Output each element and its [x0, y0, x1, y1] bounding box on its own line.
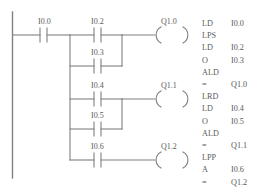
instruction-mnemonic: ALD [202, 69, 219, 77]
coil-label-q10: Q1.0 [161, 18, 177, 26]
instruction-mnemonic: LPP [202, 154, 216, 162]
contact-label-i06: I0.6 [91, 143, 104, 151]
contact-i02 [94, 28, 101, 42]
instruction-mnemonic: LD [202, 44, 213, 52]
instruction-operand: I0.0 [231, 20, 244, 28]
instruction-mnemonic: = [202, 179, 207, 187]
contact-i03 [94, 59, 101, 73]
contact-i00 [40, 28, 47, 42]
instruction-operand: Q1.0 [231, 81, 247, 89]
contact-label-i05: I0.5 [91, 112, 104, 120]
contact-i06 [94, 153, 101, 167]
instruction-mnemonic: LRD [202, 93, 218, 101]
instruction-mnemonic: LD [202, 20, 213, 28]
instruction-operand: I0.6 [231, 166, 244, 174]
instruction-mnemonic: O [202, 57, 208, 65]
instruction-mnemonic: LD [202, 105, 213, 113]
contact-label-i04: I0.4 [91, 82, 104, 90]
ladder-diagram-canvas [0, 0, 262, 188]
coil-q11 [156, 91, 188, 107]
instruction-mnemonic: O [202, 118, 208, 126]
instruction-mnemonic: A [202, 166, 208, 174]
instruction-mnemonic: ALD [202, 130, 219, 138]
instruction-mnemonic: = [202, 81, 207, 89]
contact-i05 [94, 122, 101, 136]
instruction-operand: I0.5 [231, 118, 244, 126]
instruction-mnemonic: LPS [202, 32, 216, 40]
contact-label-i03: I0.3 [91, 49, 104, 57]
instruction-operand: Q1.2 [231, 179, 247, 187]
coil-label-q12: Q1.2 [161, 143, 177, 151]
instruction-operand: I0.2 [231, 44, 244, 52]
coil-q10 [156, 27, 188, 43]
instruction-operand: I0.4 [231, 105, 244, 113]
coil-label-q11: Q1.1 [161, 82, 177, 90]
instruction-operand: I0.3 [231, 57, 244, 65]
instruction-mnemonic: = [202, 142, 207, 150]
coil-q12 [156, 152, 188, 168]
contact-i04 [94, 92, 101, 106]
contact-label-i02: I0.2 [91, 18, 104, 26]
contact-label-i00: I0.0 [38, 18, 51, 26]
instruction-operand: Q1.1 [231, 142, 247, 150]
